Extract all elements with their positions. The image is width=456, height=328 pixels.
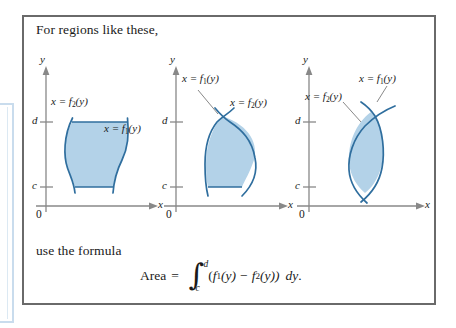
figure-3-label-f2-arg: (y) — [330, 90, 342, 102]
figure-2-label-f2: x = f2(y) — [230, 96, 267, 110]
figure-1-graphic — [34, 60, 164, 220]
figure-1-label-f1-arg: (y) — [129, 122, 141, 134]
y-axis-arrow — [43, 66, 50, 75]
leader-line-f1 — [377, 86, 387, 102]
figure-2-y-axis-label: y — [170, 53, 175, 65]
formula-f2-arg: (y)) — [260, 268, 279, 284]
figure-2-x-axis-label: x — [288, 198, 293, 210]
figure-1-tick-c-label: c — [32, 179, 37, 191]
formula-minus: − — [240, 268, 248, 284]
bleed-frame-inner-decoration — [0, 107, 8, 319]
figure-1-y-axis-label: y — [40, 53, 45, 65]
figure-1-label-f2: x = f2(y) — [51, 95, 88, 109]
figure-2-label-f2-text: x = f — [230, 96, 251, 108]
figure-2-label-f1-arg: (y) — [207, 72, 219, 84]
figure-3-x-axis-label: x — [425, 198, 430, 210]
figure-1-tick-d-label: d — [32, 114, 38, 126]
leader-line-f1 — [198, 90, 218, 114]
figure-3-label-f1-arg: (y) — [384, 72, 396, 84]
figure-2-label-f1-text: x = f — [182, 72, 203, 84]
integral-limits: d c — [200, 262, 205, 290]
figure-2-origin-label: 0 — [166, 208, 172, 220]
figure-1-origin-label: 0 — [36, 208, 42, 220]
figure-3-label-f2-text: x = f — [305, 90, 326, 102]
x-axis-arrow — [416, 203, 425, 210]
leader-line-f2 — [343, 102, 361, 122]
figure-2: d c 0 y x x = f1(y) x = f2(y) — [162, 60, 297, 220]
formula-period: . — [298, 268, 301, 284]
figure-2-tick-d-label: d — [162, 114, 168, 126]
integral-upper-limit: d — [204, 259, 209, 269]
figure-1-label-f2-arg: (y) — [76, 95, 88, 107]
caption-top: For regions like these, — [36, 22, 158, 38]
figure-2-label-f1: x = f1(y) — [182, 72, 219, 86]
figure-3-tick-d-label: d — [295, 114, 301, 126]
integral-lower-limit: c — [196, 283, 201, 293]
figure-2-label-f2-arg: (y) — [255, 96, 267, 108]
figure-1-label-f1-text: x = f — [104, 122, 125, 134]
formula-f1-arg: (y) — [221, 268, 236, 284]
figure-3-label-f1: x = f1(y) — [359, 72, 396, 86]
y-axis-arrow — [306, 66, 313, 75]
figure-3-y-axis-label: y — [303, 53, 308, 65]
y-axis-arrow — [173, 66, 180, 75]
figure-3: d c 0 y x x = f2(y) x = f1(y) — [295, 60, 435, 220]
figure-1-label-f2-text: x = f — [51, 95, 72, 107]
figure-3-label-f1-text: x = f — [359, 72, 380, 84]
formula-area-word: Area — [140, 268, 166, 284]
formula-integral: ∫ d c — [189, 262, 205, 290]
area-formula: Area = ∫ d c ( f1(y) − f2(y)) dy. — [140, 262, 302, 290]
figure-page: For regions like these, d c 0 y x — [0, 0, 456, 328]
formula-equals: = — [171, 268, 179, 284]
figure-1: d c 0 y x x = f2(y) x = f1(y) — [34, 60, 164, 220]
x-axis-arrow — [149, 203, 158, 210]
figure-2-tick-c-label: c — [162, 179, 167, 191]
caption-mid: use the formula — [36, 243, 121, 259]
figure-1-label-f1: x = f1(y) — [104, 122, 141, 136]
figure-3-tick-c-label: c — [295, 179, 300, 191]
figure-3-label-f2: x = f2(y) — [305, 90, 342, 104]
x-axis-arrow — [279, 203, 288, 210]
formula-differential: dy — [286, 268, 299, 284]
figure-3-origin-label: 0 — [299, 208, 305, 220]
